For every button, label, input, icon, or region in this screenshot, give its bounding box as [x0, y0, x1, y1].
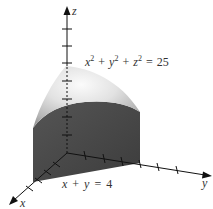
diagram-canvas: z y x x2+y2+z2=25 x+y=4 [0, 0, 213, 209]
z-axis-arrow-icon [64, 6, 71, 15]
y-axis-label: y [201, 176, 208, 190]
solid-diagram: z y x x2+y2+z2=25 x+y=4 [0, 0, 213, 209]
sphere-equation-label: x2+y2+z2=25 [84, 54, 169, 69]
x-axis-label: x [19, 196, 26, 209]
plane-equation-label: x+y=4 [61, 177, 112, 191]
z-axis-label: z [71, 4, 77, 18]
plane-face [33, 101, 140, 182]
